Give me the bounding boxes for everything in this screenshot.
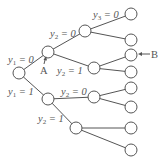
marker-label-B: B bbox=[151, 49, 158, 60]
node-y2-1-top bbox=[88, 62, 100, 74]
label-y2-1-bot: y2 = 1 bbox=[37, 113, 64, 126]
label-y2-1-top: y2 = 1 bbox=[56, 65, 83, 78]
root-node bbox=[13, 67, 25, 79]
leaf-node-8 bbox=[125, 144, 137, 156]
leaf-node-7 bbox=[125, 122, 137, 134]
leaf-node-2 bbox=[125, 34, 137, 46]
node-y1-1 bbox=[42, 93, 54, 105]
leaf-node-B bbox=[125, 49, 137, 61]
leaf-node-6 bbox=[125, 101, 137, 113]
leaf-node-1 bbox=[125, 8, 137, 20]
probability-tree-diagram: y1 = 0 y1 = 1 y2 = 0 y2 = 1 y3 = 0 y2 = … bbox=[0, 0, 165, 164]
node-y2-0-top bbox=[79, 25, 91, 37]
node-y2-0-bot bbox=[88, 91, 100, 103]
leaf-node-4 bbox=[125, 66, 137, 78]
node-y2-1-bot bbox=[70, 122, 82, 134]
marker-label-A: A bbox=[40, 65, 48, 76]
label-y1-1: y1 = 1 bbox=[7, 86, 34, 99]
node-A bbox=[42, 46, 54, 58]
leaf-node-5 bbox=[125, 82, 137, 94]
label-y2-0-top: y2 = 0 bbox=[49, 28, 77, 41]
